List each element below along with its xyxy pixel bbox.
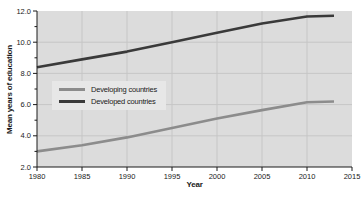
y-axis-title: Mean years of education — [5, 15, 14, 165]
developed-line-swatch — [59, 100, 85, 103]
line-chart-figure: 2.04.06.08.010.012.019801985199019952000… — [0, 0, 364, 197]
legend-item-developing: Developing countries — [59, 85, 157, 94]
legend: Developing countries Developed countries — [52, 81, 166, 110]
legend-label-developing: Developing countries — [91, 85, 157, 94]
y-tick-label: 6.0 — [21, 100, 31, 109]
y-tick-label: 8.0 — [21, 69, 31, 78]
y-tick-label: 12.0 — [16, 7, 31, 16]
developing-line-swatch — [59, 88, 85, 91]
legend-label-developed: Developed countries — [91, 97, 156, 106]
y-tick-label: 10.0 — [16, 38, 31, 47]
y-tick-label: 2.0 — [21, 163, 31, 172]
y-tick-label: 4.0 — [21, 131, 31, 140]
x-axis-title: Year — [37, 180, 352, 189]
legend-item-developed: Developed countries — [59, 97, 157, 106]
